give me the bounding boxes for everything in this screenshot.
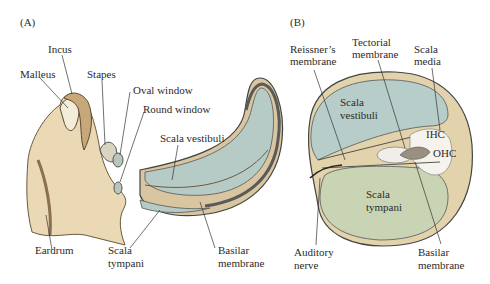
label-scala-vestibuli-a: Scala vestibuli [160,132,224,144]
label-auditory-nerve-2: nerve [294,259,318,271]
label-tectorial-1: Tectorial [352,36,391,48]
label-ohc: OHC [433,147,456,159]
label-scala-media-2: media [414,55,441,67]
label-auditory-nerve-1: Auditory [294,246,334,258]
label-basilar-a-1: Basilar [218,244,249,256]
label-malleus: Malleus [20,68,55,80]
label-scala-tympani-a-1: Scala [108,244,132,256]
label-basilar-b-1: Basilar [418,246,449,258]
label-stapes: Stapes [87,68,116,80]
label-reissner-2: membrane [290,55,336,67]
label-scala-tympani-b-1: Scala [366,188,390,200]
label-basilar-b-2: membrane [418,259,464,271]
label-ihc: IHC [426,128,445,140]
label-scala-tympani-b-2: tympani [366,201,402,213]
label-scala-tympani-a-2: tympani [108,257,144,269]
label-oval-window: Oval window [133,84,193,96]
label-scala-media-1: Scala [414,43,438,55]
label-reissner-1: Reissner’s [290,43,336,55]
label-incus: Incus [48,43,72,55]
panel-a-label: (A) [20,16,35,28]
label-tectorial-2: membrane [352,48,398,60]
label-scala-vestibuli-b-1: Scala [340,96,364,108]
label-eardrum: Eardrum [35,244,73,256]
label-basilar-a-2: membrane [218,257,264,269]
round-window [114,182,122,194]
label-round-window: Round window [143,103,211,115]
label-scala-vestibuli-b-2: vestibuli [340,109,378,121]
panel-b-label: (B) [290,16,305,28]
oval-window [113,153,123,167]
